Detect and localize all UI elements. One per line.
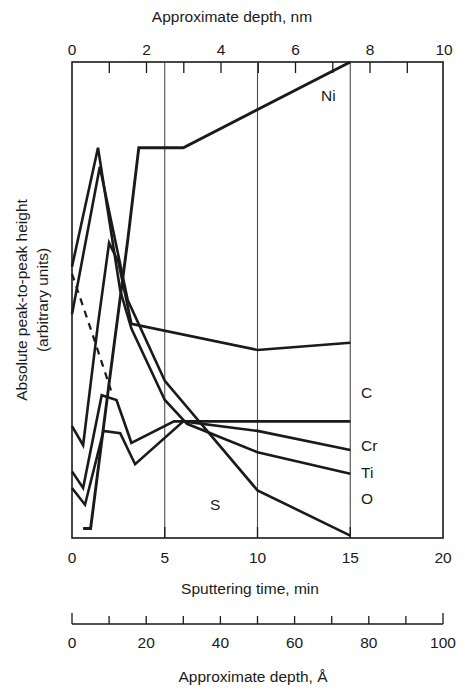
secondary-axis-ticks [72, 613, 443, 624]
secondary-axis-title: Approximate depth, Å [178, 668, 328, 685]
top-axis-ticks [109, 62, 407, 73]
series-labels: Ni C Cr Ti O S [210, 87, 377, 513]
series-label-Ti: Ti [361, 464, 373, 481]
secondary-axis-tick-labels: 0 20 40 60 80 100 [68, 634, 457, 651]
secondary-tick-label: 80 [360, 634, 378, 651]
bottom-axis-tick-labels: 0 5 10 15 20 [68, 549, 452, 566]
secondary-tick-label: 0 [68, 634, 77, 651]
top-tick-label: 8 [366, 41, 375, 58]
secondary-tick-label: 100 [430, 634, 456, 651]
series-label-Cr: Cr [361, 437, 377, 454]
top-tick-label: 2 [142, 41, 151, 58]
bottom-axis-ticks [165, 527, 351, 538]
secondary-tick-label: 40 [212, 634, 230, 651]
bottom-tick-label: 10 [249, 549, 267, 566]
bottom-axis-title: Sputtering time, min [181, 580, 319, 597]
top-tick-label: 4 [217, 41, 226, 58]
bottom-tick-label: 5 [160, 549, 169, 566]
top-axis-title: Approximate depth, nm [152, 8, 312, 25]
secondary-depth-ruler: 0 20 40 60 80 100 Approximate depth, Å [68, 613, 457, 685]
y-axis-title: Absolute peak-to-peak height (arbitrary … [13, 198, 51, 400]
bottom-tick-label: 0 [68, 549, 77, 566]
top-tick-label: 10 [435, 41, 453, 58]
top-tick-label: 0 [68, 41, 77, 58]
bottom-tick-label: 20 [434, 549, 452, 566]
secondary-tick-label: 60 [286, 634, 304, 651]
secondary-tick-label: 20 [138, 634, 156, 651]
series-label-O: O [361, 490, 373, 507]
data-curves [72, 62, 350, 536]
y-axis-title-line1: Absolute peak-to-peak height [13, 198, 30, 400]
series-label-Ni: Ni [321, 87, 336, 104]
series-label-C: C [361, 384, 372, 401]
top-axis-tick-labels: 0 2 4 6 8 10 [68, 41, 453, 58]
figure-container: Approximate depth, nm 0 2 4 6 8 10 [0, 0, 465, 694]
y-axis-title-line2: (arbitrary units) [34, 248, 51, 352]
series-label-S: S [210, 496, 220, 513]
series-line-Ni [83, 62, 350, 529]
depth-profile-chart: Approximate depth, nm 0 2 4 6 8 10 [0, 0, 465, 694]
top-tick-label: 6 [291, 41, 300, 58]
bottom-tick-label: 15 [342, 549, 359, 566]
